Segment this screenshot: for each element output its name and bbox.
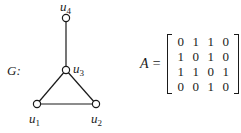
node-u2 [92,100,99,107]
cell: 1 [203,34,218,49]
cell: 0 [218,49,233,64]
cell: 1 [203,49,218,64]
cell: 1 [188,34,203,49]
adjacency-matrix: A = 0 1 1 0 1 0 1 0 1 1 0 1 0 0 1 0 [140,34,239,94]
graph-name: G: [7,63,21,79]
matrix-bracket: 0 1 1 0 1 0 1 0 1 1 0 1 0 0 1 0 [167,34,239,94]
cell: 0 [188,79,203,94]
cell: 0 [203,64,218,79]
matrix-label: A = [140,56,161,72]
cell: 0 [218,34,233,49]
label-u1: u1 [29,112,40,128]
label-u3: u3 [73,62,84,78]
cell: 0 [173,34,188,49]
cell: 1 [203,79,218,94]
cell: 0 [188,49,203,64]
cell: 0 [218,79,233,94]
label-u2: u2 [91,112,102,128]
edge-u1-u3 [37,70,66,104]
cell: 0 [173,79,188,94]
matrix-grid: 0 1 1 0 1 0 1 0 1 1 0 1 0 0 1 0 [172,34,234,94]
cell: 1 [188,64,203,79]
node-u1 [33,100,40,107]
cell: 1 [173,64,188,79]
right-bracket [234,34,239,94]
label-u4: u4 [60,0,71,16]
node-u3 [62,66,69,73]
cell: 1 [218,64,233,79]
cell: 1 [173,49,188,64]
